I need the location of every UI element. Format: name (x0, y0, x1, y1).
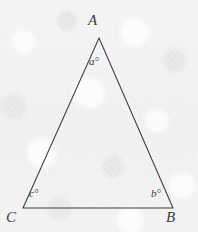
vertex-label-c: C (6, 210, 16, 225)
vertex-label-b: B (166, 210, 175, 225)
angle-label-b: b° (151, 188, 161, 199)
angle-label-a: a° (89, 56, 99, 67)
angle-label-c: c° (29, 188, 38, 199)
vertex-label-a: A (88, 13, 97, 28)
triangle-angle-diagram: A B C a° b° c° (0, 0, 198, 232)
